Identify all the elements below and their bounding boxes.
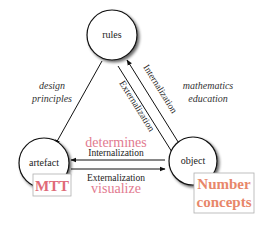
concepts-label: concepts [197,194,252,210]
label-education: education [188,93,227,104]
number-concepts-box: Number concepts [194,173,254,213]
label-visualize: visualize [91,181,141,196]
node-artefact-label: artefact [29,157,59,168]
mtt-label: MTT [35,178,69,194]
label-bottom-internalization: Internalization [88,148,144,158]
label-design: design [39,80,65,91]
triangle-diagram: rules artefact object design principles … [0,0,267,226]
number-label: Number [197,176,251,192]
mtt-box: MTT [33,174,71,196]
label-principles: principles [31,93,72,104]
label-mathematics: mathematics [183,80,234,91]
node-object-label: object [181,155,206,166]
label-diag-internalization: Internalization [141,63,179,115]
node-rules: rules [87,10,137,60]
node-rules-label: rules [102,29,122,40]
label-diag-externalization: Externalization [117,79,156,134]
